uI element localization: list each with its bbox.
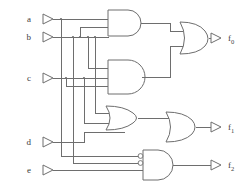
and-gate-2 [108, 46, 182, 94]
input-label-b: b [27, 32, 32, 42]
input-buffer-c [43, 73, 108, 83]
input-buffer-a [43, 14, 108, 24]
or-gate-3 [166, 112, 211, 142]
output-buffer-f0 [211, 33, 221, 43]
wire-bus-b [72, 27, 139, 163]
input-buffer-b [43, 32, 108, 42]
wire-bus-c [65, 77, 108, 123]
output-buffer-f2 [211, 160, 221, 170]
input-buffer-d [43, 132, 124, 147]
output-label-f2: f2 [228, 160, 234, 172]
input-label-a: a [27, 14, 31, 24]
or-gate-1 [180, 22, 211, 54]
input-label-d: d [27, 137, 32, 147]
and-gate-1 [108, 10, 182, 36]
circuit-canvas: a b c d e f0 f1 f2 [0, 0, 250, 188]
or-gate-2 [106, 106, 168, 130]
output-buffer-f1 [211, 122, 221, 132]
input-label-e: e [27, 165, 31, 175]
input-label-c: c [27, 73, 31, 83]
output-label-f1: f1 [228, 122, 234, 134]
output-label-f0: f0 [228, 33, 234, 45]
logic-circuit-diagram: a b c d e f0 f1 f2 [0, 0, 250, 188]
input-buffer-e [43, 165, 143, 175]
and-gate-3 [138, 150, 211, 180]
